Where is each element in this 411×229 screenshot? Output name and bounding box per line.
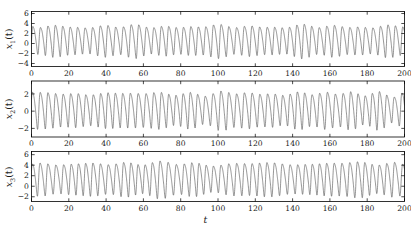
x-tick-label: 160: [323, 139, 338, 148]
y-tick-label: −2: [18, 124, 29, 133]
y-label-base: x: [3, 114, 14, 119]
panel-2: 02040608010012014016018020020−2: [18, 81, 411, 148]
y-label-suffix: (t): [3, 29, 14, 40]
y-tick-label: 6: [24, 9, 29, 18]
x-tick-label: 120: [248, 139, 263, 148]
x-tick-label: 180: [360, 139, 375, 148]
y-tick-label: −2: [18, 192, 29, 201]
x-tick-label: 80: [176, 139, 186, 148]
y-axis-label-panel-2: x2(t): [3, 87, 17, 131]
y-axis-label-panel-1: x1(t): [3, 17, 17, 61]
trace-x2(t): [32, 91, 405, 130]
x-tick-label: 60: [139, 139, 149, 148]
x-tick-label: 20: [64, 69, 74, 78]
x-tick-label: 120: [248, 204, 263, 213]
x-tick-label: 140: [285, 204, 300, 213]
panel-1: 0204060801001201401601802006420−2−4: [18, 9, 411, 78]
figure-timeseries-panels: 0204060801001201401601802006420−2−402040…: [0, 0, 411, 229]
x-tick-label: 120: [248, 69, 263, 78]
y-tick-label: 2: [24, 29, 29, 38]
y-tick-label: −2: [18, 49, 29, 58]
x-tick-label: 0: [29, 204, 34, 213]
y-tick-label: 4: [24, 161, 29, 170]
y-label-suffix: (t): [3, 99, 14, 110]
trace-x1(t): [32, 24, 405, 59]
x-tick-label: 160: [323, 69, 338, 78]
y-label-suffix: (t): [3, 166, 14, 177]
x-tick-label: 180: [360, 204, 375, 213]
y-tick-label: −4: [18, 59, 29, 68]
y-label-subscript: 2: [8, 110, 16, 114]
plot-canvas: 0204060801001201401601802006420−2−402040…: [0, 0, 411, 229]
x-tick-label: 60: [139, 204, 149, 213]
x-tick-label: 40: [101, 204, 111, 213]
y-tick-label: 0: [24, 107, 29, 116]
y-tick-label: 4: [24, 19, 29, 28]
x-tick-label: 200: [397, 69, 411, 78]
y-label-subscript: 1: [8, 40, 16, 44]
x-tick-label: 20: [64, 139, 74, 148]
x-tick-label: 160: [323, 204, 338, 213]
x-tick-label: 200: [397, 204, 411, 213]
trace-x3(t): [32, 161, 405, 199]
x-tick-label: 140: [285, 139, 300, 148]
x-tick-label: 180: [360, 69, 375, 78]
x-tick-label: 100: [211, 69, 226, 78]
x-axis-label: t: [0, 214, 411, 225]
x-tick-label: 0: [29, 139, 34, 148]
x-tick-label: 20: [64, 204, 74, 213]
panel-3: 0204060801001201401601802006420−2: [18, 150, 411, 212]
x-tick-label: 80: [176, 69, 186, 78]
x-tick-label: 100: [211, 139, 226, 148]
y-tick-label: 2: [24, 90, 29, 99]
y-tick-label: 2: [24, 171, 29, 180]
x-tick-label: 80: [176, 204, 186, 213]
x-tick-label: 0: [29, 69, 34, 78]
x-tick-label: 60: [139, 69, 149, 78]
x-tick-label: 140: [285, 69, 300, 78]
x-tick-label: 100: [211, 204, 226, 213]
y-tick-label: 0: [24, 182, 29, 191]
x-tick-label: 40: [101, 69, 111, 78]
y-label-base: x: [3, 44, 14, 49]
y-tick-label: 0: [24, 39, 29, 48]
y-tick-label: 6: [24, 150, 29, 159]
y-label-base: x: [3, 181, 14, 186]
x-tick-label: 200: [397, 139, 411, 148]
y-axis-label-panel-3: x3(t): [3, 154, 17, 198]
x-tick-label: 40: [101, 139, 111, 148]
